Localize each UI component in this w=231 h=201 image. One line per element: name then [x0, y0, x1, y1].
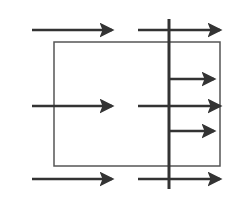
- frame-rectangle: [54, 42, 220, 166]
- arrow-group: [32, 30, 220, 179]
- flow-diagram: [0, 0, 231, 201]
